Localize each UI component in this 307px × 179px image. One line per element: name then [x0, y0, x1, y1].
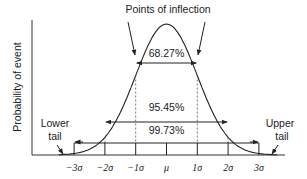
sigma-ticks: −3σ−2σ−1σμ1σ2σ3σ — [66, 143, 265, 173]
lower-tail-arrow — [57, 145, 63, 154]
tick-label: 2σ — [223, 162, 234, 173]
upper-tail-label-line2: tail — [275, 130, 288, 142]
tick-label: 1σ — [192, 162, 203, 173]
interval-label: 95.45% — [149, 101, 185, 113]
upper-tail-arrow — [272, 145, 278, 154]
inflection-arrow-right — [198, 22, 205, 55]
inflection-arrow-left — [128, 22, 135, 55]
upper-tail-label-line1: Upper — [266, 117, 295, 129]
normal-distribution-diagram: Probability of event −3σ−2σ−1σμ1σ2σ3σ 68… — [0, 0, 307, 179]
lower-tail-label-line1: Lower — [41, 117, 70, 129]
y-axis-label: Probability of event — [11, 42, 23, 131]
diagram-title: Points of inflection — [125, 3, 210, 15]
interval-label: 68.27% — [149, 47, 185, 59]
tick-label: −1σ — [127, 162, 145, 173]
lower-tail-label-line2: tail — [48, 130, 61, 142]
tick-label: 3σ — [253, 162, 265, 173]
interval-arrows: 68.27%95.45%99.73% — [75, 47, 258, 142]
tick-label: −2σ — [97, 162, 115, 173]
tick-label: μ — [163, 162, 169, 173]
tick-label: −3σ — [66, 162, 84, 173]
interval-label: 99.73% — [149, 124, 185, 136]
